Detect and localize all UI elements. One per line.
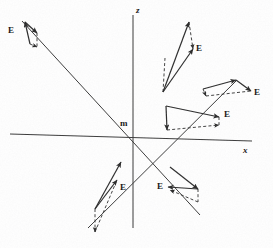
vector-group-upper-left-dashed-component: [30, 44, 37, 47]
vector-group-lower-right-component-arrow: [170, 167, 198, 189]
field-label-e-lower-right: E: [157, 182, 163, 191]
diagonal-axis-sw-ne: [88, 80, 237, 228]
field-label-e-lower-left: E: [120, 183, 126, 192]
vector-group-right-upper-resultant-arrow: [203, 80, 236, 89]
field-label-e-upper-left: E: [8, 26, 14, 35]
vector-group-right-lower-resultant-arrow: [166, 106, 219, 117]
field-label-e-right-lower: E: [224, 110, 230, 119]
vector-group-right-upper-component-arrow: [236, 80, 251, 91]
diagram-canvas: z x m E E E E E E: [0, 0, 273, 248]
axis-label-z: z: [136, 6, 140, 15]
vector-group-upper-right-resultant-arrow: [163, 49, 193, 92]
vector-group-lower-left-resultant-arrow: [95, 180, 117, 209]
vectors-layer: [25, 22, 251, 232]
axes-layer: [10, 15, 252, 228]
vector-diagram-svg: [0, 0, 273, 248]
vector-group-lower-right-dashed-component: [170, 190, 198, 202]
vector-group-right-lower-component-arrow: [166, 106, 167, 130]
vector-group-right-lower-dashed-component: [167, 125, 219, 130]
vector-group-upper-right-dashed-component: [189, 22, 193, 49]
vector-group-right-upper-dashed-leg: [206, 91, 251, 96]
axis-label-x: x: [243, 146, 248, 155]
vector-group-upper-right-component-arrow: [163, 22, 189, 92]
diagonal-axis-nw-se: [22, 21, 200, 215]
origin-label-m: m: [120, 119, 128, 128]
vector-group-right-upper-dashed-component: [203, 89, 206, 96]
vector-group-lower-left-dashed-leg: [95, 180, 117, 232]
vector-group-lower-right-resultant-arrow: [168, 187, 198, 189]
field-label-e-upper-right: E: [196, 44, 202, 53]
field-label-e-right-upper: E: [254, 88, 260, 97]
